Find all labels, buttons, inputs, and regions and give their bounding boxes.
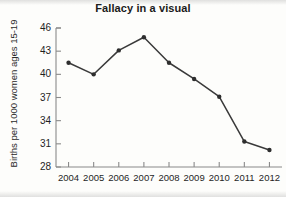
data-series-line bbox=[69, 37, 270, 150]
x-tick-label: 2006 bbox=[108, 172, 129, 183]
x-tick-label: 2009 bbox=[184, 172, 205, 183]
y-tick-label: 34 bbox=[40, 115, 52, 126]
x-tick-label: 2004 bbox=[58, 172, 79, 183]
data-point-marker bbox=[117, 48, 121, 52]
y-tick-label: 37 bbox=[40, 92, 52, 103]
data-point-marker bbox=[192, 77, 196, 81]
y-axis-tick-labels: 28313437404346 bbox=[40, 22, 52, 172]
data-point-marker bbox=[91, 72, 95, 76]
x-axis-ticks bbox=[69, 162, 270, 167]
data-point-marker bbox=[167, 61, 171, 65]
line-chart-figure: Fallacy in a visual Births per 1000 wome… bbox=[0, 0, 286, 197]
chart-plot-area: 200420052006200720082009201020112012 283… bbox=[0, 0, 286, 197]
data-point-marker bbox=[66, 61, 70, 65]
x-tick-label: 2011 bbox=[234, 172, 254, 183]
y-tick-label: 40 bbox=[40, 68, 52, 79]
data-point-marker bbox=[242, 139, 246, 143]
data-point-marker bbox=[217, 95, 221, 99]
y-axis-ticks bbox=[56, 28, 61, 167]
x-tick-label: 2005 bbox=[83, 172, 104, 183]
x-tick-label: 2007 bbox=[133, 172, 154, 183]
x-tick-label: 2008 bbox=[158, 172, 179, 183]
y-tick-label: 43 bbox=[40, 45, 52, 56]
x-tick-label: 2010 bbox=[209, 172, 230, 183]
x-tick-label: 2012 bbox=[259, 172, 280, 183]
y-tick-label: 28 bbox=[40, 161, 52, 172]
data-point-marker bbox=[267, 148, 271, 152]
x-axis-tick-labels: 200420052006200720082009201020112012 bbox=[58, 172, 280, 183]
data-point-marker bbox=[142, 35, 146, 39]
y-tick-label: 46 bbox=[40, 22, 52, 33]
y-tick-label: 31 bbox=[40, 138, 52, 149]
